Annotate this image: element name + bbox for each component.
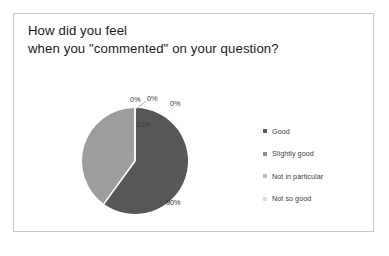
data-label-zero-extra: 0% <box>170 99 180 108</box>
slide-card: How did you feel when you "commented" on… <box>13 13 374 232</box>
legend-label: Not so good <box>272 194 311 203</box>
legend-item-good[interactable]: Good <box>263 120 368 143</box>
chart-plot-area: 0% 0% 0% 10% 90% Good Slightly good Not … <box>14 76 374 232</box>
legend-label: Slightly good <box>272 149 314 158</box>
pie-chart <box>80 96 202 222</box>
data-label-slightly-good: 10% <box>136 120 151 129</box>
legend-swatch-icon <box>263 174 267 178</box>
legend-item-slightly-good[interactable]: Slightly good <box>263 143 368 166</box>
legend-swatch-icon <box>263 129 267 133</box>
chart-legend: Good Slightly good Not in particular Not… <box>263 120 368 210</box>
chart-title: How did you feel when you "commented" on… <box>28 22 358 57</box>
pie-chart-svg <box>80 96 202 222</box>
data-label-not-in-particular: 0% <box>130 95 140 104</box>
data-label-good: 90% <box>166 198 181 207</box>
legend-label: Good <box>272 127 290 136</box>
legend-swatch-icon <box>263 197 267 201</box>
data-label-not-so-good: 0% <box>147 94 157 103</box>
legend-item-not-so-good[interactable]: Not so good <box>263 188 368 211</box>
legend-swatch-icon <box>263 152 267 156</box>
legend-label: Not in particular <box>272 172 323 181</box>
legend-item-not-in-particular[interactable]: Not in particular <box>263 165 368 188</box>
